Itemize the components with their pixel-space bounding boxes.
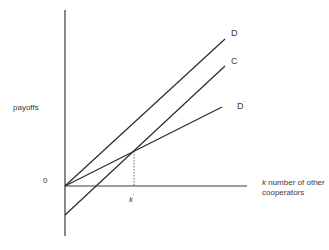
x-axis-label-text: number of other: [266, 178, 325, 187]
y-axis-label: payoffs: [13, 103, 39, 113]
origin-label: 0: [43, 176, 47, 186]
line-d-label-text: D: [231, 28, 238, 38]
line-d-prime-label: D': [237, 101, 244, 111]
line-c: [65, 66, 225, 215]
line-d: [65, 39, 225, 186]
line-d-prime: [65, 107, 222, 186]
line-d-prime-sup: ': [244, 100, 245, 106]
x-axis-label-line2: cooperators: [262, 188, 325, 198]
line-d-label: D: [231, 28, 238, 38]
x-axis-label-line1: k number of other: [262, 178, 325, 188]
threshold-label-sup: ': [133, 193, 134, 199]
line-c-label: C: [231, 56, 238, 66]
threshold-label: k': [129, 195, 134, 205]
x-axis-label: k number of other cooperators: [262, 178, 325, 198]
line-c-label-text: C: [231, 56, 238, 66]
diagram-canvas: [0, 0, 329, 250]
